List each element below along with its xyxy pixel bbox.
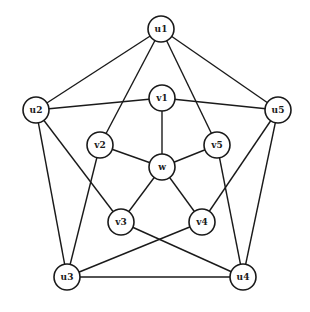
node-label: u4	[237, 272, 250, 282]
edge-u1-u2	[36, 29, 161, 110]
node-label: v5	[210, 140, 223, 150]
node-w: w	[149, 154, 175, 180]
node-layer: u1u2u5u3u4v1v2v5wv3v4	[23, 16, 291, 290]
node-u1: u1	[148, 16, 174, 42]
edge-layer	[36, 29, 278, 277]
node-u3: u3	[54, 264, 80, 290]
node-label: w	[157, 162, 166, 172]
node-label: u1	[155, 24, 168, 34]
node-v3: v3	[108, 209, 134, 235]
node-v2: v2	[87, 132, 113, 158]
edge-u1-u5	[161, 29, 278, 110]
node-label: u3	[61, 272, 74, 282]
graph-diagram: u1u2u5u3u4v1v2v5wv3v4	[0, 0, 310, 312]
edge-u4-v5	[217, 145, 243, 277]
node-label: v4	[195, 217, 208, 227]
edge-u3-v2	[67, 145, 100, 277]
edge-u2-u3	[36, 110, 67, 277]
node-v4: v4	[189, 209, 215, 235]
node-u2: u2	[23, 97, 49, 123]
edge-u2-v3	[36, 110, 121, 222]
node-label: v3	[114, 217, 127, 227]
node-label: v2	[93, 140, 106, 150]
node-label: u5	[272, 105, 285, 115]
edge-u2-v1	[36, 98, 162, 110]
node-label: u2	[30, 105, 43, 115]
node-label: v1	[155, 93, 168, 103]
edge-u5-v1	[162, 98, 278, 110]
node-v1: v1	[149, 85, 175, 111]
edge-u1-v2	[100, 29, 161, 145]
node-v5: v5	[204, 132, 230, 158]
node-u5: u5	[265, 97, 291, 123]
node-u4: u4	[230, 264, 256, 290]
